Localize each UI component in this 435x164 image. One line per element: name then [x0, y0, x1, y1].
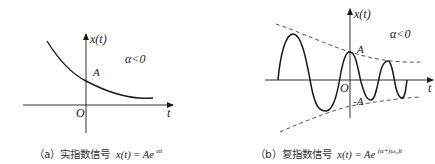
panel-b-caption: （b）复指数信号 x(t) = Ae (α+jω₀)t — [255, 147, 403, 161]
panel-b-origin-label: O — [340, 81, 349, 95]
panel-b-caption-formula: x(t) = Ae — [336, 149, 375, 161]
panel-b-y-axis-label: x(t) — [353, 7, 371, 21]
panel-b-caption-prefix: （b）复指数信号 — [255, 148, 332, 160]
panel-b-amplitude-label: A — [356, 43, 364, 55]
panel-a-caption-formula: x(t) = Ae — [115, 149, 154, 161]
panel-a-caption: （a）实指数信号 x(t) = Ae αt — [34, 147, 163, 161]
panel-a-amplitude-label: A — [92, 66, 100, 78]
panel-a-origin-label: O — [76, 106, 85, 120]
panel-a-x-axis-label: t — [167, 106, 171, 120]
panel-a-caption-exponent: αt — [156, 147, 163, 155]
signal-diagrams: x(t) t O A α<0 （a）实指数信号 x(t) = Ae αt x(t… — [0, 0, 435, 164]
panel-a-real-exponential: x(t) t O A α<0 （a）实指数信号 x(t) = Ae αt — [23, 32, 173, 161]
panel-b-x-axis-label: t — [428, 81, 432, 95]
panel-a-y-axis-label: x(t) — [89, 32, 107, 46]
panel-a-caption-prefix: （a）实指数信号 — [34, 148, 110, 160]
panel-b-caption-exponent: (α+jω₀)t — [378, 147, 403, 155]
panel-b-oscillating-curve — [278, 34, 407, 111]
panel-b-neg-amplitude-label: -A — [353, 95, 364, 107]
panel-a-condition: α<0 — [125, 52, 145, 66]
panel-b-condition: α<0 — [390, 27, 410, 41]
panel-a-exponential-curve — [47, 41, 153, 98]
panel-b-complex-exponential: x(t) t O A -A α<0 （b）复指数信号 x(t) = Ae (α+… — [255, 7, 433, 161]
